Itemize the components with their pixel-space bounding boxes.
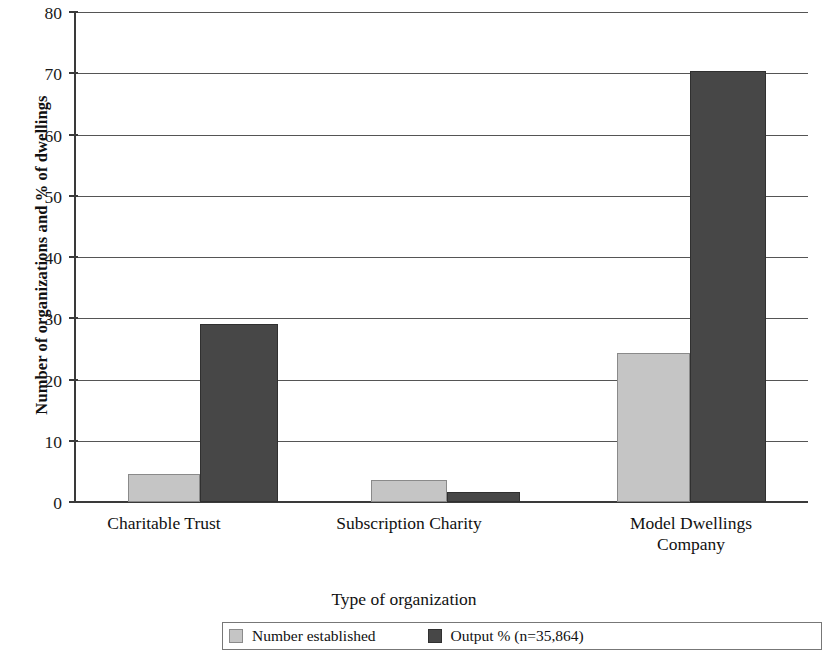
y-tick-label-70: 70 [2,73,62,74]
y-tick-mark-80 [69,11,78,13]
x-category-label-line: Charitable Trust [49,513,279,534]
bar-3-series-2 [690,71,766,502]
y-tick-label-text: 80 [45,3,63,24]
y-tick-label-text: 0 [53,493,62,514]
y-tick-mark-30 [69,317,78,319]
y-tick-label-text: 30 [45,309,63,330]
plot-area [74,12,808,502]
legend-item-output-percent: Output % (n=35,864) [428,627,584,645]
y-tick-mark-20 [69,379,78,381]
y-tick-mark-60 [69,134,78,136]
y-tick-mark-0 [69,501,78,503]
x-category-label-3: Model DwellingsCompany [576,513,806,554]
bar-1-series-1 [128,474,200,502]
x-axis-title: Type of organization [0,589,808,610]
y-tick-mark-70 [69,72,78,74]
y-tick-label-text: 20 [45,371,63,392]
y-tick-label-text: 70 [45,64,63,85]
y-tick-label-80: 80 [2,12,62,13]
legend-label-series-2: Output % (n=35,864) [451,627,584,645]
y-tick-mark-50 [69,195,78,197]
x-category-label-line: Company [576,534,806,555]
y-tick-label-30: 30 [2,318,62,319]
y-tick-label-50: 50 [2,196,62,197]
y-tick-label-0: 0 [2,502,62,503]
y-tick-mark-40 [69,256,78,258]
bar-1-series-2 [200,324,278,502]
legend-swatch-icon-series-2 [428,629,442,643]
y-tick-label-40: 40 [2,257,62,258]
bar-3-series-1 [617,353,690,502]
y-tick-label-text: 40 [45,248,63,269]
legend-label-series-1: Number established [252,627,376,645]
x-category-label-line: Model Dwellings [576,513,806,534]
x-category-label-1: Charitable Trust [49,513,279,534]
x-category-label-line: Subscription Charity [294,513,524,534]
y-tick-label-text: 60 [45,126,63,147]
y-tick-label-text: 50 [45,187,63,208]
y-tick-label-60: 60 [2,135,62,136]
y-tick-label-text: 10 [45,432,63,453]
gridline-80 [74,12,808,13]
bar-2-series-2 [447,492,520,502]
bar-2-series-1 [371,480,447,502]
y-tick-label-20: 20 [2,380,62,381]
legend-item-number-established: Number established [229,627,376,645]
legend-swatch-icon-series-1 [229,629,243,643]
y-tick-mark-10 [69,440,78,442]
chart-legend: Number established Output % (n=35,864) [222,622,822,650]
x-category-label-2: Subscription Charity [294,513,524,534]
y-tick-label-10: 10 [2,441,62,442]
